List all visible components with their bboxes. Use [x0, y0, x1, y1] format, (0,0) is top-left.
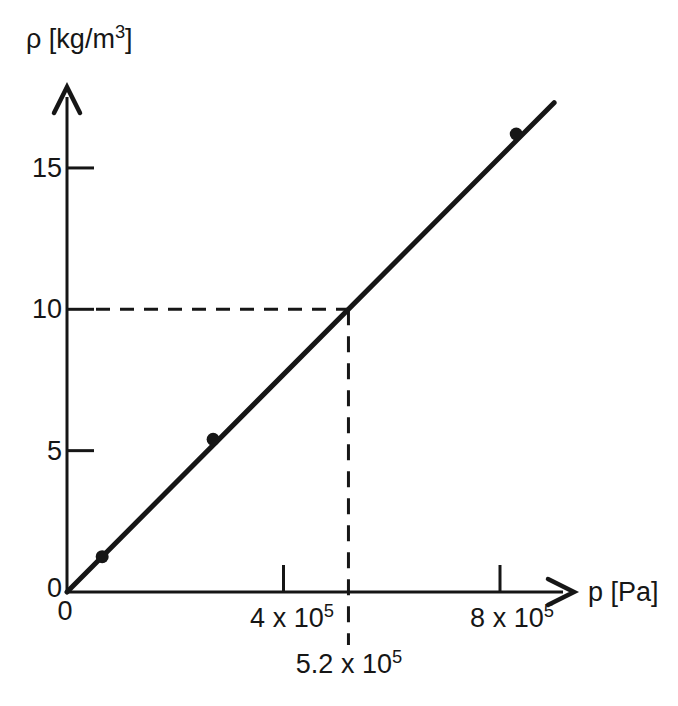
x-tick-text: 4 x 10: [250, 603, 324, 633]
x-tick-label-4e5: 4 x 105: [250, 603, 334, 633]
y-tick-label-10: 10: [14, 294, 62, 324]
guide-pressure-label: 5.2 x 105: [296, 649, 402, 679]
x-axis-title: p [Pa]: [588, 577, 659, 607]
x-tick-text: 8 x 10: [470, 603, 544, 633]
x-tick-superscript: 5: [544, 600, 554, 621]
x-tick-label-0: 0: [57, 596, 72, 626]
y-axis-title: ρ [kg/m3]: [26, 24, 133, 54]
y-axis-title-text: ρ [kg/m: [26, 24, 115, 54]
plot-canvas: [0, 0, 678, 706]
y-axis-title-superscript: 3: [115, 21, 125, 42]
y-tick-label-0: 0: [14, 573, 62, 603]
density-pressure-figure: ρ [kg/m3] 15 10 5 0 0 4 x 105 8 x 105 5.…: [0, 0, 678, 706]
guide-pressure-superscript: 5: [392, 646, 402, 667]
guide-pressure-text: 5.2 x 10: [296, 649, 392, 679]
y-tick-label-15: 15: [14, 153, 62, 183]
y-axis-title-close-bracket: ]: [125, 24, 133, 54]
x-tick-label-8e5: 8 x 105: [470, 603, 554, 633]
x-tick-superscript: 5: [324, 600, 334, 621]
y-tick-label-5: 5: [14, 436, 62, 466]
